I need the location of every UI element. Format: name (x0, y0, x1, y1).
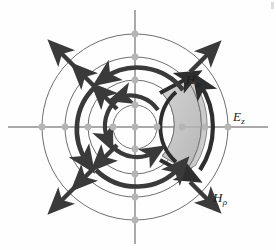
label-e-z-subscript: z (241, 116, 245, 126)
radial-arrow-ul-outer (57, 49, 78, 70)
field-cell-figure: Hφ Ez Hρ (0, 0, 276, 250)
axis-node (132, 124, 139, 131)
radial-arrow-ll-outer (57, 184, 78, 205)
radial-arrow-lr-outer-hrho (190, 182, 212, 204)
label-e-z-base: E (233, 109, 241, 124)
axis-node (39, 124, 46, 131)
axis-node (132, 31, 139, 38)
axis-node (62, 124, 69, 131)
axis-node (110, 124, 117, 131)
axis-node (85, 124, 92, 131)
radial-arrow-ul-mid (80, 72, 99, 91)
radial-arrow-ur-outer (190, 50, 212, 72)
axis-node (154, 124, 161, 131)
axis-node (132, 171, 139, 178)
label-h-rho-subscript: ρ (222, 197, 227, 207)
axis-node (179, 124, 186, 131)
label-h-phi: Hφ (186, 71, 201, 89)
corner-artifact-mark (271, 2, 274, 9)
axis-node (202, 124, 209, 131)
axis-node (225, 124, 232, 131)
axis-node (132, 54, 139, 61)
axis-node (132, 194, 139, 201)
axis-node (132, 77, 139, 84)
label-e-z: Ez (233, 108, 245, 126)
axis-node (132, 102, 139, 109)
axis-node (132, 146, 139, 153)
label-h-phi-subscript: φ (195, 79, 200, 89)
label-h-rho-base: H (213, 190, 222, 205)
axis-node (132, 217, 139, 224)
arc-arrow-top-inner (120, 95, 158, 110)
arc-arrow-bottom-mid (96, 167, 180, 187)
label-h-phi-base: H (186, 72, 195, 87)
label-h-rho: Hρ (213, 189, 227, 207)
